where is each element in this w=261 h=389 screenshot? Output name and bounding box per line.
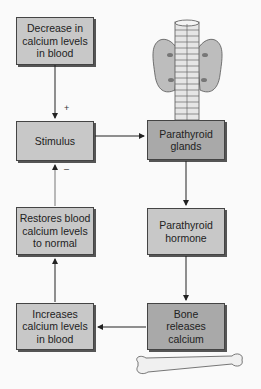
parathyroid-illustration-icon [153, 20, 222, 120]
bone-illustration-icon [137, 354, 243, 374]
arrows-and-illustrations [0, 0, 261, 389]
